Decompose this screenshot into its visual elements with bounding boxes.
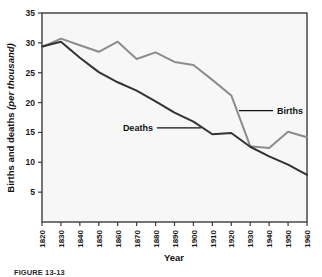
x-tick-label: 1870: [133, 229, 142, 247]
x-tick-label: 1880: [152, 229, 161, 247]
figure-caption: FIGURE 13-13: [14, 268, 65, 277]
x-tick-label: 1850: [95, 229, 104, 247]
x-tick-label: 1900: [190, 229, 199, 247]
x-tick-label: 1820: [38, 229, 47, 247]
birth-death-rate-line-chart: 5101520253035 18201830184018501860187018…: [0, 0, 322, 277]
y-axis-title: Births and deaths (per thousand): [5, 43, 16, 192]
x-axis-title: Year: [164, 252, 184, 263]
x-tick-label: 1930: [246, 229, 255, 247]
x-tick-label: 1940: [265, 229, 274, 247]
x-tick-label: 1920: [227, 229, 236, 247]
births-series-label: Births: [277, 106, 303, 116]
x-tick-label: 1950: [284, 229, 293, 247]
deaths-series-label: Deaths: [123, 123, 153, 133]
x-tick-label: 1960: [303, 229, 312, 247]
y-tick-label: 10: [26, 157, 36, 167]
plot-area-background: [42, 13, 307, 222]
y-tick-label: 25: [26, 68, 36, 78]
x-tick-label: 1860: [114, 229, 123, 247]
x-tick-label: 1840: [76, 229, 85, 247]
x-tick-label: 1890: [171, 229, 180, 247]
y-axis-tick-labels: 5101520253035: [26, 8, 36, 197]
x-axis-tick-labels: 1820183018401850186018701880189019001910…: [38, 229, 312, 247]
y-tick-label: 30: [26, 38, 36, 48]
y-tick-label: 15: [26, 127, 36, 137]
figure-container: 5101520253035 18201830184018501860187018…: [0, 0, 322, 277]
y-axis-title-main: Births and deaths: [5, 110, 16, 193]
x-tick-label: 1830: [57, 229, 66, 247]
y-axis-title-units: (per thousand): [5, 43, 16, 110]
y-axis-title-group: Births and deaths (per thousand): [5, 43, 16, 192]
x-tick-label: 1910: [209, 229, 218, 247]
y-tick-label: 5: [30, 187, 35, 197]
y-tick-label: 35: [26, 8, 36, 18]
y-tick-label: 20: [26, 98, 36, 108]
